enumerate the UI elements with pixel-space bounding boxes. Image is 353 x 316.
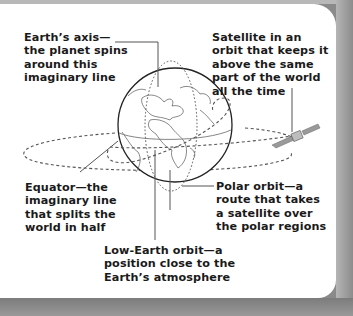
low-earth-orbit-label: Low-Earth orbit—a position close to the … [104, 244, 235, 284]
geostationary-satellite-label: Satellite in an orbit that keeps it abov… [212, 31, 328, 98]
polar-orbit-label: Polar orbit—a route that takes a satelli… [216, 180, 326, 234]
satellite-icon [272, 124, 320, 148]
earth-axis-label: Earth’s axis— the planet spins around th… [24, 31, 128, 85]
equator-label: Equator—the imaginary line that splits t… [25, 181, 117, 235]
